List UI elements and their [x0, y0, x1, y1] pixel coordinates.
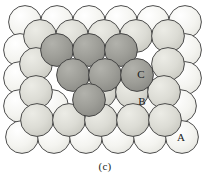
sphere-c-6	[73, 84, 106, 117]
sphere-b-14	[117, 104, 150, 137]
sphere-packing-diagram: ABC	[0, 0, 210, 160]
figure-caption: (c)	[0, 160, 210, 172]
sphere-label-a: A	[177, 131, 185, 143]
sphere-b-11	[21, 104, 54, 137]
sphere-label-b: B	[138, 95, 145, 107]
sphere-label-c: C	[137, 68, 144, 80]
sphere-b-6	[152, 48, 185, 81]
figure-close-packed-spheres: ABC (c)	[0, 0, 210, 190]
